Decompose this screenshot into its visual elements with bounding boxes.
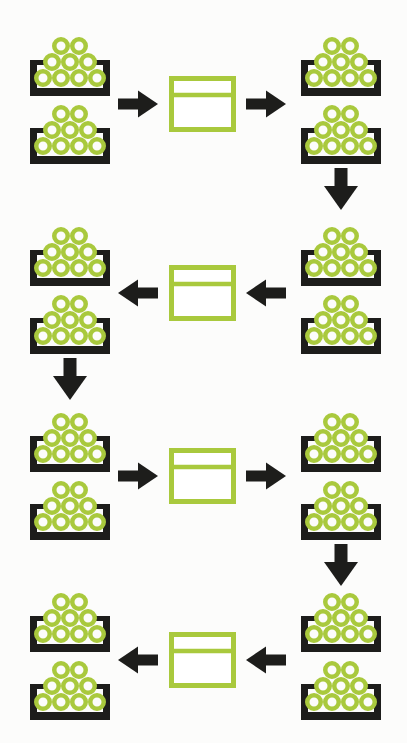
ball-pyramid (36, 297, 104, 343)
row1-left-bin-1 (30, 36, 110, 96)
ball-ring (352, 499, 366, 513)
ball-ring (307, 627, 321, 641)
bin-with-balls-icon (301, 412, 381, 472)
ball-ring (90, 515, 104, 529)
ball-ring (343, 297, 357, 311)
ball-ring (352, 611, 366, 625)
ball-ring (334, 123, 348, 137)
ball-pyramid (307, 297, 375, 343)
ball-ring (325, 71, 339, 85)
ball-ring (316, 499, 330, 513)
ball-ring (316, 611, 330, 625)
ball-ring (63, 431, 77, 445)
ball-pyramid (36, 483, 104, 529)
ball-ring (361, 515, 375, 529)
ball-ring (72, 595, 86, 609)
row3-arrow-into-box (118, 461, 158, 491)
ball-ring (343, 261, 357, 275)
bin-with-balls-icon (30, 294, 110, 354)
ball-ring (325, 261, 339, 275)
ball-ring (45, 313, 59, 327)
ball-ring (325, 329, 339, 343)
ball-ring (63, 611, 77, 625)
bin-with-balls-icon (30, 226, 110, 286)
ball-ring (90, 447, 104, 461)
ball-ring (54, 447, 68, 461)
ball-ring (334, 611, 348, 625)
ball-ring (36, 261, 50, 275)
ball-ring (316, 55, 330, 69)
ball-ring (343, 229, 357, 243)
ball-ring (63, 499, 77, 513)
processor-box-icon (169, 76, 236, 132)
ball-ring (334, 245, 348, 259)
ball-ring (325, 297, 339, 311)
row3-arrow-out-of-box (246, 461, 286, 491)
ball-ring (343, 415, 357, 429)
ball-ring (72, 695, 86, 709)
ball-ring (45, 123, 59, 137)
ball-ring (54, 483, 68, 497)
ball-ring (334, 499, 348, 513)
bin-with-balls-icon (301, 294, 381, 354)
ball-ring (45, 245, 59, 259)
ball-pyramid (36, 415, 104, 461)
ball-pyramid (307, 415, 375, 461)
ball-ring (343, 515, 357, 529)
ball-ring (72, 297, 86, 311)
bin-with-balls-icon (301, 226, 381, 286)
ball-ring (325, 595, 339, 609)
row3-down-arrow (324, 544, 358, 586)
bin-with-balls-icon (30, 36, 110, 96)
ball-ring (81, 245, 95, 259)
bin-with-balls-icon (301, 36, 381, 96)
ball-ring (54, 627, 68, 641)
ball-ring (90, 139, 104, 153)
ball-ring (72, 139, 86, 153)
bin-with-balls-icon (301, 660, 381, 720)
ball-ring (361, 329, 375, 343)
processor-box-icon (169, 632, 236, 688)
ball-ring (307, 139, 321, 153)
ball-ring (316, 123, 330, 137)
row3-right-bin-1 (301, 412, 381, 472)
row4-left-bin-1 (30, 592, 110, 652)
row4-arrow-into-box (246, 645, 286, 675)
row2-processor-box (169, 265, 236, 321)
ball-ring (316, 679, 330, 693)
ball-ring (325, 229, 339, 243)
ball-ring (63, 123, 77, 137)
ball-ring (343, 695, 357, 709)
ball-ring (325, 695, 339, 709)
ball-ring (63, 679, 77, 693)
bin-with-balls-icon (301, 104, 381, 164)
ball-ring (325, 107, 339, 121)
ball-ring (325, 39, 339, 53)
bin-with-balls-icon (30, 592, 110, 652)
ball-ring (352, 679, 366, 693)
ball-ring (343, 627, 357, 641)
ball-ring (63, 55, 77, 69)
ball-ring (361, 139, 375, 153)
ball-ring (81, 55, 95, 69)
ball-pyramid (307, 663, 375, 709)
ball-ring (72, 71, 86, 85)
ball-ring (54, 261, 68, 275)
ball-ring (81, 123, 95, 137)
ball-pyramid (307, 595, 375, 641)
ball-ring (352, 55, 366, 69)
ball-ring (45, 499, 59, 513)
ball-ring (72, 447, 86, 461)
ball-ring (334, 313, 348, 327)
ball-pyramid (307, 107, 375, 153)
ball-ring (361, 627, 375, 641)
ball-pyramid (36, 663, 104, 709)
ball-ring (54, 595, 68, 609)
bin-with-balls-icon (30, 412, 110, 472)
ball-ring (325, 139, 339, 153)
ball-ring (352, 123, 366, 137)
ball-ring (36, 329, 50, 343)
row2-arrow-into-box (246, 278, 286, 308)
bin-with-balls-icon (30, 660, 110, 720)
ball-ring (343, 107, 357, 121)
